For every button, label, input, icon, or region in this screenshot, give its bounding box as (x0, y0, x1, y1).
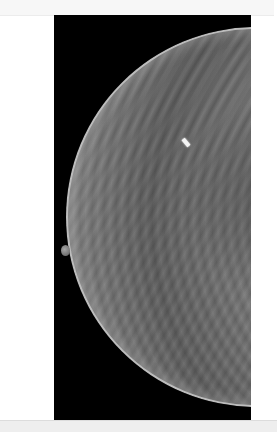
top-margin (0, 0, 274, 16)
breast-tissue (66, 27, 251, 407)
mammogram-image (54, 15, 251, 420)
nipple-marker (61, 245, 70, 256)
caption-strip (0, 420, 277, 432)
